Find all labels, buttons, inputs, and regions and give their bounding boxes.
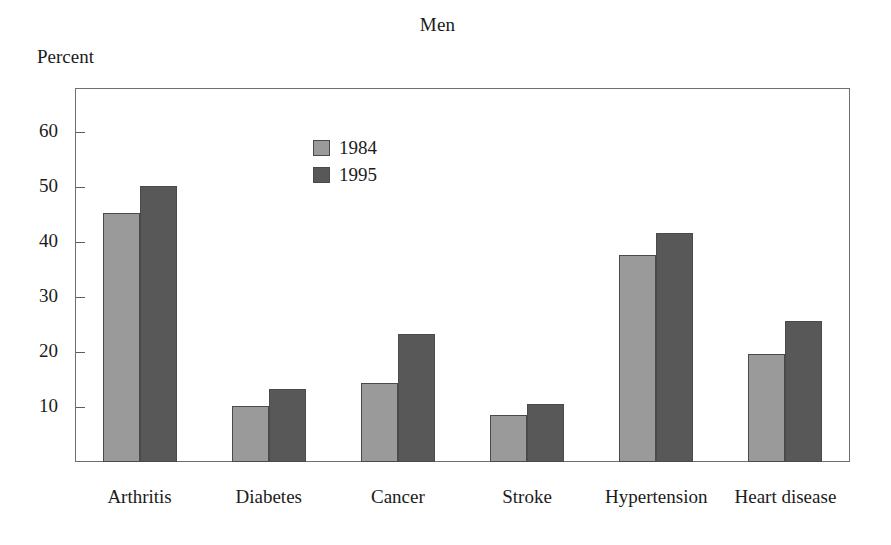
chart-title-text: Men	[420, 14, 455, 36]
chart-title: Men	[0, 14, 891, 36]
bar-stroke-1995	[527, 404, 564, 462]
plot-area	[75, 88, 850, 462]
bar-cancer-1984	[361, 383, 398, 462]
legend-label-1995: 1995	[339, 165, 377, 184]
y-tick-label-text: 60	[18, 120, 58, 142]
y-tick-label-50: 50	[18, 175, 58, 195]
y-tick-label-20: 20	[18, 340, 58, 360]
y-tick-label-text: 40	[18, 230, 58, 252]
y-tick-label-60: 60	[18, 120, 58, 140]
bar-heart-disease-1984	[748, 354, 785, 462]
legend-swatch-1995	[313, 167, 330, 183]
legend-label-1984: 1984	[339, 138, 377, 157]
chart-legend: 19841995	[313, 134, 377, 188]
y-tick-label-40: 40	[18, 230, 58, 250]
y-axis-label: Percent	[37, 46, 94, 68]
bar-hypertension-1984	[619, 255, 656, 462]
y-tick-30	[76, 297, 85, 298]
bar-heart-disease-1995	[785, 321, 822, 462]
legend-swatch-1984	[313, 140, 330, 156]
x-label-diabetes: Diabetes	[236, 486, 302, 508]
x-label-heart-disease: Heart disease	[735, 486, 837, 508]
y-tick-60	[76, 132, 85, 133]
y-tick-label-10: 10	[18, 395, 58, 415]
y-tick-50	[76, 187, 85, 188]
legend-item-1995: 1995	[313, 161, 377, 188]
y-tick-40	[76, 242, 85, 243]
x-label-hypertension: Hypertension	[605, 486, 707, 508]
y-tick-label-text: 10	[18, 395, 58, 417]
y-tick-label-text: 20	[18, 340, 58, 362]
bar-arthritis-1995	[140, 186, 177, 462]
bar-hypertension-1995	[656, 233, 693, 462]
x-label-cancer: Cancer	[371, 486, 425, 508]
y-tick-label-30: 30	[18, 285, 58, 305]
bar-diabetes-1984	[232, 406, 269, 462]
y-tick-20	[76, 352, 85, 353]
y-tick-label-text: 30	[18, 285, 58, 307]
bar-arthritis-1984	[103, 213, 140, 462]
legend-item-1984: 1984	[313, 134, 377, 161]
bar-stroke-1984	[490, 415, 527, 462]
bar-cancer-1995	[398, 334, 435, 462]
x-label-stroke: Stroke	[502, 486, 552, 508]
chart-figure: Men Percent 102030405060 ArthritisDiabet…	[0, 0, 891, 545]
bar-diabetes-1995	[269, 389, 306, 462]
y-tick-label-text: 50	[18, 175, 58, 197]
x-label-arthritis: Arthritis	[107, 486, 171, 508]
y-tick-10	[76, 407, 85, 408]
